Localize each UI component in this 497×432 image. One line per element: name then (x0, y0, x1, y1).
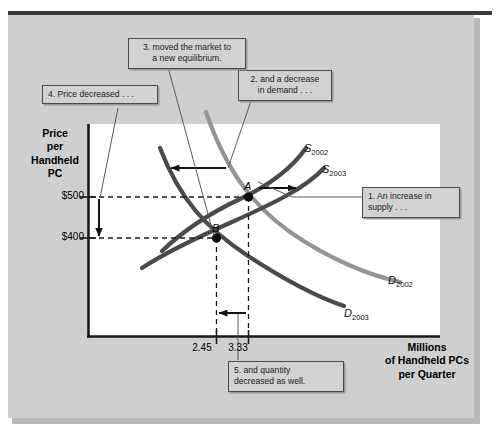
demand-2002-letter: D (388, 274, 396, 286)
supply-2002-label: S2002 (304, 142, 328, 157)
x-tick-label-245: 2.45 (186, 342, 218, 353)
x-tick-label-333: 3.33 (222, 342, 254, 353)
top-divider-rule (8, 11, 492, 15)
demand-2003-letter: D (344, 307, 352, 319)
callout-box-2: 2. and a decrease in demand . . . (238, 70, 332, 101)
plot-area (88, 124, 440, 337)
demand-2002-label: D2002 (388, 274, 413, 289)
callout-box-3: 3. moved the market to a new equilibrium… (128, 38, 246, 69)
point-a-label: A (244, 180, 251, 192)
callout-box-1: 1. An increase in supply . . . (362, 187, 460, 218)
callout-box-4: 4. Price decreased . . . (42, 85, 158, 104)
callout-box-5: 5. and quantity decreased as well. (228, 361, 344, 392)
demand-2003-year: 2003 (352, 313, 369, 322)
figure-container: Price per Handheld PC Millions of Handhe… (0, 0, 497, 432)
supply-2003-year: 2003 (329, 169, 346, 178)
point-b-label: B (212, 222, 219, 234)
demand-2003-label: D2003 (344, 307, 369, 322)
demand-2002-year: 2002 (396, 280, 413, 289)
y-tick-label-400: $400 (44, 231, 84, 242)
x-axis-title: Millions of Handheld PCs per Quarter (372, 341, 482, 381)
supply-2002-year: 2002 (311, 148, 328, 157)
supply-2003-label: S2003 (322, 163, 346, 178)
y-tick-label-500: $500 (44, 190, 84, 201)
y-axis-title: Price per Handheld PC (24, 127, 86, 181)
